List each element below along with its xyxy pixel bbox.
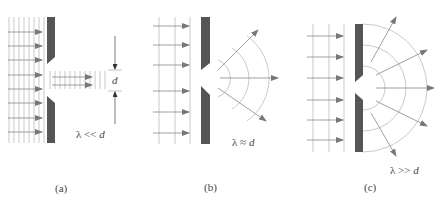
slit-barrier (201, 17, 210, 144)
panel-a: d λ << d (a) (8, 17, 122, 195)
diffracted-wavefronts (218, 36, 269, 121)
incident-rays (153, 26, 189, 133)
slit-barrier (355, 24, 363, 152)
caption-c: (c) (364, 181, 377, 194)
transmitted-rays (52, 77, 92, 85)
panel-b: λ ≈ d (b) (153, 17, 278, 194)
incident-rays (8, 32, 42, 132)
incident-wavefronts (313, 24, 344, 152)
condition-label-c: λ >> d (390, 164, 419, 176)
condition-label-b: λ ≈ d (232, 136, 255, 148)
panel-c: λ >> d (c) (307, 17, 434, 194)
caption-a: (a) (55, 182, 68, 195)
condition-label-a: λ << d (76, 128, 105, 140)
transmitted-wavefronts (50, 71, 105, 89)
incident-rays (307, 36, 343, 140)
incident-wavefronts (159, 17, 190, 144)
incident-wavefronts (9, 17, 44, 143)
slit-barrier (47, 17, 55, 143)
caption-b: (b) (204, 181, 217, 194)
slit-width-label: d (112, 74, 118, 86)
diffraction-figure: d λ << d (a) (0, 0, 440, 206)
